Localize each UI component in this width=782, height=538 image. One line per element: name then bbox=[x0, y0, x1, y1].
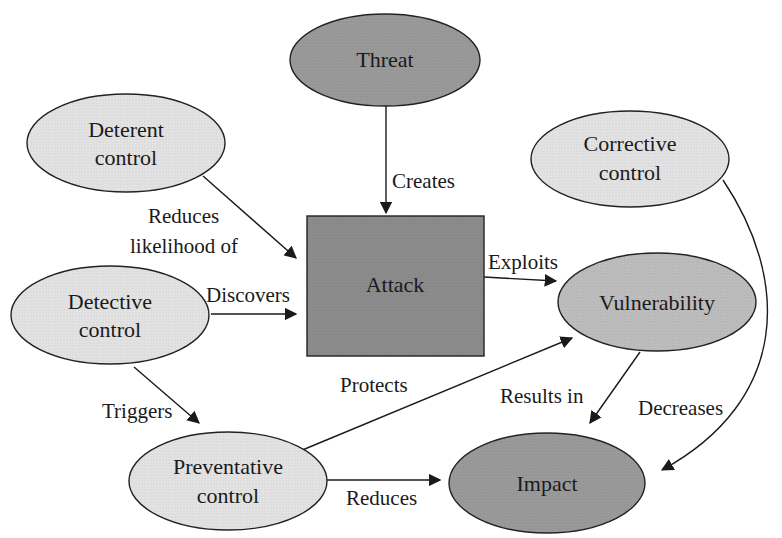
edge-results-in: Results in bbox=[500, 352, 640, 423]
arrow-results-in bbox=[590, 352, 640, 423]
node-label-deterent-line2: control bbox=[95, 145, 157, 170]
node-label-vulnerability: Vulnerability bbox=[599, 290, 715, 315]
edge-label-results-in: Results in bbox=[500, 384, 584, 408]
node-label-corrective-line1: Corrective bbox=[584, 131, 677, 156]
node-detective-control: Detective control bbox=[11, 266, 209, 364]
node-threat: Threat bbox=[290, 14, 480, 106]
edge-label-protects: Protects bbox=[340, 373, 408, 397]
node-vulnerability: Vulnerability bbox=[558, 253, 756, 351]
node-label-corrective-line2: control bbox=[599, 160, 661, 185]
edge-triggers: Triggers bbox=[102, 367, 199, 423]
edge-label-triggers: Triggers bbox=[102, 399, 172, 423]
node-label-preventative-line2: control bbox=[197, 483, 259, 508]
edge-label-creates: Creates bbox=[392, 169, 455, 193]
edge-creates: Creates bbox=[386, 106, 455, 213]
node-deterent-control: Deterent control bbox=[27, 94, 225, 192]
node-label-detective-line1: Detective bbox=[68, 289, 152, 314]
edge-reduces: Reduces bbox=[325, 480, 440, 510]
edge-label-discovers: Discovers bbox=[206, 283, 290, 307]
node-label-detective-line2: control bbox=[79, 317, 141, 342]
security-concept-diagram: Creates Reduces likelihood of Discovers … bbox=[0, 0, 782, 538]
node-impact: Impact bbox=[449, 433, 645, 533]
node-label-deterent-line1: Deterent bbox=[88, 117, 164, 142]
node-label-threat: Threat bbox=[356, 47, 413, 72]
texture bbox=[531, 111, 729, 207]
texture bbox=[27, 94, 225, 192]
node-preventative-control: Preventative control bbox=[129, 432, 327, 530]
node-attack: Attack bbox=[307, 216, 484, 356]
node-label-preventative-line1: Preventative bbox=[173, 454, 283, 479]
edge-label-exploits: Exploits bbox=[488, 250, 558, 274]
edge-exploits: Exploits bbox=[484, 250, 558, 281]
edge-discovers: Discovers bbox=[206, 283, 296, 314]
edge-label-reduces: Reduces bbox=[346, 486, 417, 510]
texture bbox=[11, 266, 209, 364]
edge-label-reduces-line2: likelihood of bbox=[130, 234, 238, 258]
node-label-attack: Attack bbox=[366, 272, 425, 297]
edge-label-reduces-line1: Reduces bbox=[148, 204, 219, 228]
arrow-exploits bbox=[484, 277, 556, 281]
edge-label-decreases: Decreases bbox=[638, 396, 723, 420]
node-corrective-control: Corrective control bbox=[531, 111, 729, 207]
texture bbox=[129, 432, 327, 530]
node-label-impact: Impact bbox=[516, 471, 577, 496]
